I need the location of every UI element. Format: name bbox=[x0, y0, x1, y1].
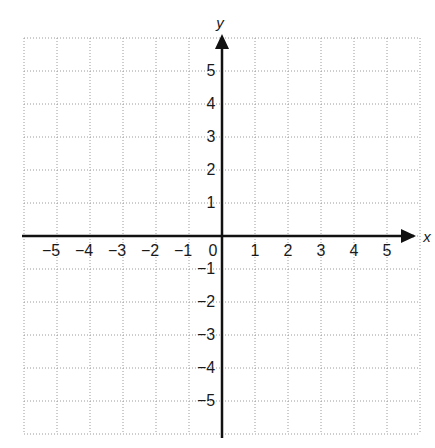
y-tick-label: −2 bbox=[197, 294, 215, 310]
x-tick-label: 5 bbox=[383, 243, 392, 259]
x-axis-arrow-icon bbox=[401, 229, 416, 243]
y-tick-label: 5 bbox=[207, 63, 216, 79]
y-tick-label: −4 bbox=[197, 360, 215, 376]
x-tick-label: 2 bbox=[284, 243, 293, 259]
x-tick-label: −2 bbox=[141, 243, 159, 259]
grid-svg bbox=[0, 0, 435, 448]
x-tick-label: 4 bbox=[350, 243, 359, 259]
x-axis-label: x bbox=[423, 228, 431, 245]
x-tick-label: −4 bbox=[75, 243, 93, 259]
x-tick-label: 1 bbox=[251, 243, 260, 259]
x-tick-label: −5 bbox=[42, 243, 60, 259]
y-axis-label: y bbox=[216, 14, 224, 31]
y-tick-label: −5 bbox=[197, 393, 215, 409]
coordinate-plane: −5−4−3−2−11234554321−1−2−3−4−50 x y bbox=[0, 0, 435, 448]
y-axis-arrow-icon bbox=[215, 34, 229, 49]
y-tick-label: 2 bbox=[207, 162, 216, 178]
x-tick-label: −1 bbox=[174, 243, 192, 259]
y-tick-label: 4 bbox=[207, 96, 216, 112]
x-tick-label: −3 bbox=[108, 243, 126, 259]
y-tick-label: −3 bbox=[197, 327, 215, 343]
y-tick-label: 3 bbox=[207, 129, 216, 145]
origin-label: 0 bbox=[209, 243, 218, 259]
y-tick-label: −1 bbox=[197, 261, 215, 277]
x-tick-label: 3 bbox=[317, 243, 326, 259]
y-tick-label: 1 bbox=[207, 195, 216, 211]
